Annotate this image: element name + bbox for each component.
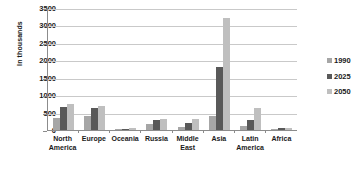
legend: 199020252050 — [327, 57, 357, 104]
bar — [67, 104, 74, 130]
x-axis-label: Africa — [266, 134, 297, 152]
bar-group — [204, 9, 235, 130]
x-axis-label: Latin America — [235, 134, 266, 152]
bar — [247, 120, 254, 130]
bar — [254, 108, 261, 130]
bar-groups — [48, 9, 297, 130]
bar — [240, 126, 247, 130]
x-axis-tick-mark — [140, 130, 141, 133]
bar-group — [235, 9, 266, 130]
bar — [91, 108, 98, 130]
bar — [153, 120, 160, 130]
legend-label: 2050 — [334, 88, 351, 96]
bar — [271, 129, 278, 130]
x-axis-label: Asia — [203, 134, 234, 152]
legend-swatch-icon — [327, 58, 332, 63]
bar — [84, 116, 91, 130]
plot-area — [47, 9, 297, 131]
bar — [285, 128, 292, 130]
bar — [115, 129, 122, 130]
bar-chart: In thousands 350030002500200015001000500… — [0, 0, 357, 171]
bar — [60, 107, 67, 130]
bar — [129, 128, 136, 130]
bar — [160, 119, 167, 130]
x-axis-label: North America — [47, 134, 78, 152]
x-axis-label: Russia — [141, 134, 172, 152]
x-axis-label: Oceania — [110, 134, 141, 152]
bar — [178, 127, 185, 130]
legend-item[interactable]: 2025 — [327, 73, 357, 81]
bar — [216, 67, 223, 130]
legend-label: 1990 — [334, 57, 351, 65]
legend-swatch-icon — [327, 74, 332, 79]
x-axis-label: Europe — [78, 134, 109, 152]
x-axis-label: Middle East — [172, 134, 203, 152]
bar-group — [48, 9, 79, 130]
bar-group — [79, 9, 110, 130]
y-axis-tick-mark — [43, 131, 47, 132]
bar — [122, 129, 129, 130]
x-axis-tick-mark — [265, 130, 266, 133]
legend-swatch-icon — [327, 89, 332, 94]
legend-label: 2025 — [334, 73, 351, 81]
x-axis-tick-mark — [203, 130, 204, 133]
bar — [146, 124, 153, 130]
bar — [98, 106, 105, 130]
bar — [278, 128, 285, 130]
x-axis-tick-mark — [78, 130, 79, 133]
bar-group — [141, 9, 172, 130]
x-axis-tick-mark — [172, 130, 173, 133]
bar-group — [266, 9, 297, 130]
bar — [192, 119, 199, 131]
x-axis-tick-mark — [234, 130, 235, 133]
x-axis-labels: North AmericaEuropeOceaniaRussiaMiddle E… — [47, 134, 297, 152]
bar — [53, 118, 60, 130]
bar — [185, 123, 192, 130]
bar-group — [110, 9, 141, 130]
bar — [209, 116, 216, 130]
bar-group — [173, 9, 204, 130]
x-axis-tick-mark — [109, 130, 110, 133]
legend-item[interactable]: 2050 — [327, 88, 357, 96]
bar — [223, 18, 230, 130]
legend-item[interactable]: 1990 — [327, 57, 357, 65]
